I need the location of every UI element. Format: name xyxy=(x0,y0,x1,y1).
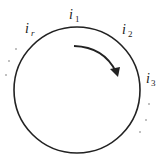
label-ir: i r xyxy=(25,21,35,38)
svg-text:r: r xyxy=(31,28,35,38)
svg-text:i: i xyxy=(25,21,29,36)
circle-diagram: i 1 i 2 i 3 i r xyxy=(0,0,163,162)
clockwise-arrow xyxy=(74,46,120,77)
label-i3: i 3 xyxy=(146,71,156,88)
svg-text:1: 1 xyxy=(75,14,80,24)
ellipsis-dots-right xyxy=(139,103,149,132)
svg-text:i: i xyxy=(146,71,150,86)
svg-text:2: 2 xyxy=(128,29,133,39)
label-i1: i 1 xyxy=(69,7,80,24)
ellipsis-dots-left xyxy=(5,48,16,75)
svg-text:i: i xyxy=(122,22,126,37)
svg-text:i: i xyxy=(69,7,73,22)
label-i2: i 2 xyxy=(122,22,133,39)
svg-text:3: 3 xyxy=(151,78,156,88)
